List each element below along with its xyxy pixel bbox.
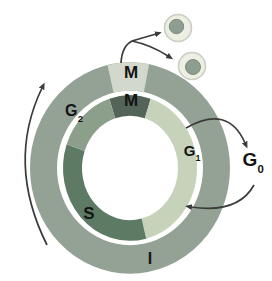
- label-g2-phase: G2: [65, 103, 83, 122]
- cell-cycle-rings: [0, 0, 272, 281]
- label-m-phase-inner: M: [124, 92, 138, 109]
- label-m-phase-outer: M: [124, 64, 138, 81]
- daughter-cell-1: [165, 15, 192, 42]
- label-interphase: I: [148, 251, 152, 267]
- daughter-cell-2: [179, 53, 206, 80]
- division-arrow-a: [121, 34, 156, 63]
- daughter-cells: [165, 15, 206, 80]
- cell-nucleus: [186, 60, 201, 75]
- label-g0-phase: G0: [242, 150, 263, 173]
- cell-cycle-diagram: M M G2 G1 G0 S I: [0, 0, 272, 281]
- cell-nucleus: [169, 19, 183, 33]
- division-arrow-b: [132, 41, 168, 56]
- label-s-phase: S: [83, 205, 94, 222]
- label-g1-phase: G1: [184, 143, 201, 162]
